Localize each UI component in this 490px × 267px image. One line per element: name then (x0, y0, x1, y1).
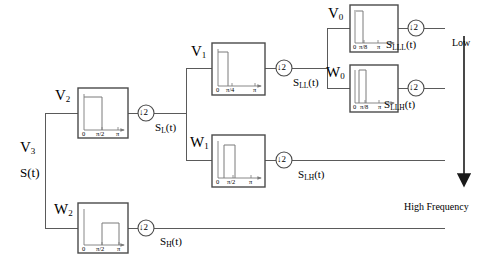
space-label-v2: V2 (55, 88, 70, 103)
space-label-v3: V3 (20, 140, 35, 155)
output-label-sllh-suffix: (t) (405, 98, 415, 110)
space-label-v2-base: V (55, 87, 66, 103)
axis-tick-v0-2: π (377, 44, 380, 51)
space-label-w1-base: W (190, 134, 204, 150)
diagram-canvas (0, 0, 490, 267)
output-label-sll: SLL(t) (293, 77, 319, 88)
axis-tick-w1-2: π (249, 179, 252, 186)
space-label-w2: W2 (54, 202, 73, 217)
axis-tick-w0-0: 0 (353, 104, 356, 111)
space-label-w2-sub: 2 (68, 208, 73, 218)
output-label-sll-suffix: (t) (308, 76, 318, 88)
space-label-w1: W1 (190, 135, 209, 150)
axis-tick-v2-0: 0 (82, 131, 85, 138)
axis-tick-v1-2: π (253, 87, 256, 94)
output-label-slll-suffix: (t) (406, 38, 416, 50)
axis-tick-w0-2: π (378, 104, 381, 111)
space-label-w0-sub: 0 (340, 71, 345, 81)
space-label-w0: W0 (326, 65, 345, 80)
frequency-high-label: High Frequency (404, 202, 469, 212)
space-label-v2-sub: 2 (66, 94, 71, 104)
output-label-slll: SLLL(t) (386, 39, 416, 50)
downsampler-w2-label: ↓2 (139, 223, 148, 232)
space-label-v0-base: V (328, 5, 339, 21)
axis-tick-w1-1: π/2 (227, 179, 235, 186)
axis-tick-v0-1: π/8 (359, 44, 367, 51)
space-label-v3-base: V (20, 139, 31, 155)
output-label-sllh-sub: LLH (390, 103, 405, 112)
downsampler-v1-label: ↓2 (277, 63, 286, 72)
output-label-slll-sub: LLL (392, 43, 406, 52)
downsampler-v0-label: ↓2 (409, 23, 418, 32)
downsampler-w0-label: ↓2 (409, 83, 418, 92)
axis-tick-v1-1: π/4 (226, 87, 234, 94)
filter-block-v1 (212, 43, 265, 95)
axis-tick-w0-1: π/8 (360, 104, 368, 111)
space-label-v0-sub: 0 (339, 12, 344, 22)
axis-tick-w2-0: 0 (82, 246, 85, 253)
axis-tick-w2-1: π/2 (96, 246, 104, 253)
space-label-v0: V0 (328, 6, 343, 21)
output-label-sh-suffix: (t) (172, 235, 182, 247)
space-label-v1: V1 (191, 44, 206, 59)
downsampler-v2-label: ↓2 (139, 108, 148, 117)
axis-tick-w2-2: π (117, 246, 120, 253)
space-label-w1-sub: 1 (204, 141, 209, 151)
frequency-low-label: Low (452, 38, 470, 48)
output-label-sl: SL(t) (155, 122, 176, 133)
axis-tick-v1-0: 0 (216, 87, 219, 94)
input-signal-label: S(t) (20, 166, 40, 179)
space-label-w2-base: W (54, 201, 68, 217)
space-label-v3-sub: 3 (31, 146, 36, 156)
output-label-sh: SH(t) (160, 236, 182, 247)
output-label-slh-sub: LH (304, 173, 314, 182)
axis-tick-w1-0: 0 (216, 179, 219, 186)
axis-tick-v0-0: 0 (353, 44, 356, 51)
space-label-v1-sub: 1 (202, 50, 207, 60)
axis-tick-v2-2: π (116, 131, 119, 138)
output-label-sh-sub: H (166, 240, 171, 249)
output-label-sl-suffix: (t) (166, 121, 176, 133)
space-label-w0-base: W (326, 64, 340, 80)
space-label-v1-base: V (191, 43, 202, 59)
output-label-sl-sub: L (161, 126, 166, 135)
output-label-sll-sub: LL (299, 81, 308, 90)
output-label-sllh: SLLH(t) (384, 99, 415, 110)
downsampler-w1-label: ↓2 (277, 155, 286, 164)
axis-tick-v2-1: π/2 (96, 131, 104, 138)
filter-bank-diagram: ↓2 ↓2 ↓2 ↓2 ↓2 ↓2 V3 S(t) V2 W2 V1 W1 V0… (0, 0, 490, 267)
output-label-slh-suffix: (t) (314, 168, 324, 180)
filter-block-w1 (212, 135, 265, 187)
output-label-slh: SLH(t) (298, 169, 325, 180)
